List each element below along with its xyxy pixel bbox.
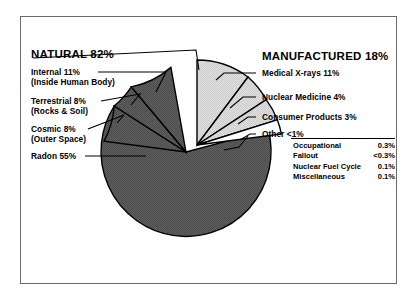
breakdown-row-occupational: Occupational 0.3% <box>293 141 395 151</box>
label-internal: Internal 11% <box>31 68 80 77</box>
label-consumer-products: Consumer Products 3% <box>262 113 357 122</box>
breakdown-row-nuclear-fuel-cycle: Nuclear Fuel Cycle 0.1% <box>293 162 395 172</box>
breakdown-row-miscellaneous: Miscellaneous 0.1% <box>293 172 395 182</box>
label-nuclear-medicine: Nuclear Medicine 4% <box>262 93 346 102</box>
breakdown-row-fallout: Fallout <0.3% <box>293 151 395 161</box>
breakdown-value-occupational: 0.3% <box>378 141 395 151</box>
label-internal-sub: (Inside Human Body) <box>31 78 115 87</box>
label-cosmic-sub: (Outer Space) <box>31 135 86 144</box>
other-breakdown-divider <box>291 138 395 139</box>
label-terrestrial: Terrestrial 8% <box>31 97 86 106</box>
breakdown-label-miscellaneous: Miscellaneous <box>293 172 345 182</box>
other-breakdown-list: Occupational 0.3% Fallout <0.3% Nuclear … <box>293 141 395 183</box>
breakdown-value-nuclear-fuel-cycle: 0.1% <box>378 162 395 172</box>
label-terrestrial-sub: (Rocks & Soil) <box>31 107 88 116</box>
breakdown-label-fallout: Fallout <box>293 151 318 161</box>
breakdown-value-fallout: <0.3% <box>373 151 395 161</box>
natural-group-label: NATURAL 82% <box>31 48 114 60</box>
breakdown-label-nuclear-fuel-cycle: Nuclear Fuel Cycle <box>293 162 361 172</box>
pie-chart-figure: NATURAL 82% Internal 11% (Inside Human B… <box>0 0 419 299</box>
manufactured-group-label: MANUFACTURED 18% <box>262 50 389 62</box>
label-radon: Radon 55% <box>31 152 76 161</box>
breakdown-label-occupational: Occupational <box>293 141 341 151</box>
breakdown-value-miscellaneous: 0.1% <box>378 172 395 182</box>
label-medical-xrays: Medical X-rays 11% <box>262 69 339 78</box>
label-cosmic: Cosmic 8% <box>31 125 76 134</box>
